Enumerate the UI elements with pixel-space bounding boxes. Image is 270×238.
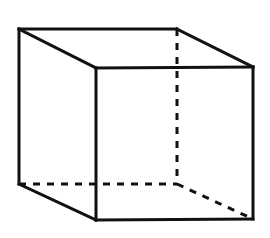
- visible-edge: [96, 67, 253, 68]
- hidden-edges: [19, 29, 253, 219]
- visible-edge: [177, 29, 253, 67]
- cube-diagram: [0, 0, 270, 238]
- visible-edge: [19, 29, 96, 68]
- visible-edges: [19, 29, 253, 220]
- cube-drawing: [0, 0, 270, 238]
- visible-edge: [96, 219, 253, 220]
- visible-edge: [19, 184, 96, 220]
- hidden-edge: [177, 184, 253, 219]
